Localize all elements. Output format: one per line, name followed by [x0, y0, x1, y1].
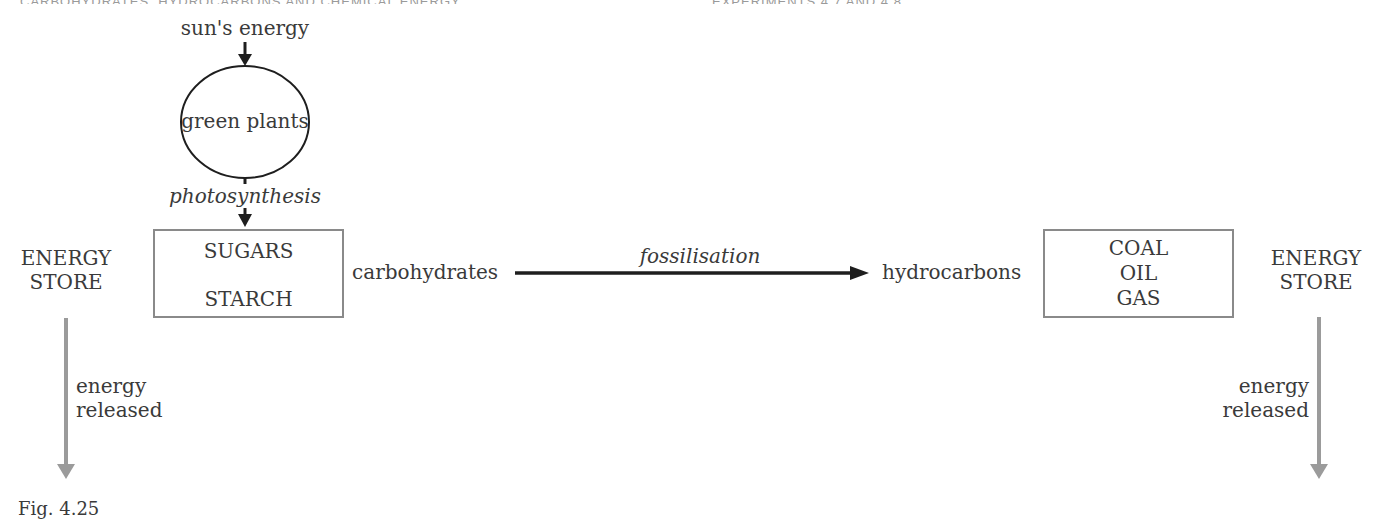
left-energy-released-line-1: energy [76, 374, 162, 398]
left-energy-store-label: ENERGY STORE [10, 246, 122, 294]
left-energy-store-line-1: ENERGY [10, 246, 122, 270]
sun-energy-label: sun's energy [180, 16, 310, 40]
left-energy-released-line-2: released [76, 398, 162, 422]
right-energy-released-line-2: released [1210, 398, 1309, 422]
fossilisation-label: fossilisation [600, 244, 800, 268]
coal-oil-gas-box: COAL OIL GAS [1043, 229, 1234, 318]
fossilisation-arrow-icon [515, 266, 869, 280]
right-energy-released-line-1: energy [1210, 374, 1309, 398]
sugars-label: SUGARS [155, 239, 342, 263]
oil-label: OIL [1045, 261, 1232, 285]
hydrocarbons-label: hydrocarbons [882, 260, 1021, 284]
sugars-starch-box: SUGARS STARCH [153, 229, 344, 318]
right-energy-store-line-1: ENERGY [1258, 246, 1374, 270]
starch-label: STARCH [155, 287, 342, 311]
left-energy-released-label: energy released [76, 374, 162, 422]
right-energy-released-label: energy released [1210, 374, 1309, 422]
carbohydrates-label: carbohydrates [352, 260, 498, 284]
photosynthesis-label: photosynthesis [150, 184, 340, 208]
left-energy-released-arrow-icon [57, 318, 75, 479]
gas-label: GAS [1045, 286, 1232, 310]
green-plants-label: green plants [181, 109, 309, 133]
sun-arrow-icon [238, 42, 252, 66]
left-energy-store-line-2: STORE [10, 270, 122, 294]
coal-label: COAL [1045, 236, 1232, 260]
right-energy-store-line-2: STORE [1258, 270, 1374, 294]
right-energy-released-arrow-icon [1310, 317, 1328, 479]
right-energy-store-label: ENERGY STORE [1258, 246, 1374, 294]
figure-caption: Fig. 4.25 [18, 498, 99, 520]
